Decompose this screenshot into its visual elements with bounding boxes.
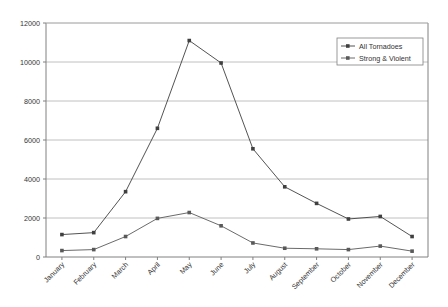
x-tick-label-september: September xyxy=(290,260,322,292)
data-point-strong-violent xyxy=(378,244,382,248)
y-tick-label: 10000 xyxy=(20,58,40,67)
chart-canvas: 020004000600080001000012000JanuaryFebrua… xyxy=(0,0,448,307)
legend-marker-icon xyxy=(346,56,350,60)
x-tick-label-november: November xyxy=(355,260,385,290)
data-point-strong-violent xyxy=(315,247,319,251)
data-point-all-tornadoes xyxy=(283,185,287,189)
data-point-strong-violent xyxy=(124,235,128,239)
data-point-all-tornadoes xyxy=(219,61,223,65)
data-point-strong-violent xyxy=(347,248,351,252)
data-point-all-tornadoes xyxy=(347,217,351,221)
x-tick-label-january: January xyxy=(42,260,67,285)
data-point-all-tornadoes xyxy=(251,147,255,151)
data-point-all-tornadoes xyxy=(92,231,96,235)
data-point-all-tornadoes xyxy=(378,215,382,219)
x-tick-label-july: July xyxy=(242,260,258,276)
x-tick-label-june: June xyxy=(208,260,225,277)
x-tick-label-may: May xyxy=(178,260,194,276)
y-tick-label: 4000 xyxy=(24,175,40,184)
data-point-strong-violent xyxy=(410,249,414,253)
data-point-strong-violent xyxy=(251,241,255,245)
x-tick-label-december: December xyxy=(387,260,417,290)
y-tick-label: 12000 xyxy=(20,19,40,28)
x-tick-label-april: April xyxy=(145,260,162,277)
y-tick-label: 8000 xyxy=(24,97,40,106)
y-tick-label: 2000 xyxy=(24,214,40,223)
y-tick-label: 6000 xyxy=(24,136,40,145)
data-point-strong-violent xyxy=(156,217,160,221)
data-point-all-tornadoes xyxy=(60,233,64,237)
x-tick-label-august: August xyxy=(267,260,289,282)
data-point-strong-violent xyxy=(187,211,191,215)
data-point-all-tornadoes xyxy=(156,127,160,131)
data-point-all-tornadoes xyxy=(187,39,191,43)
data-point-all-tornadoes xyxy=(315,202,319,206)
legend-label-1: Strong & Violent xyxy=(359,54,411,63)
data-point-all-tornadoes xyxy=(124,190,128,194)
legend-label-0: All Tornadoes xyxy=(359,42,403,51)
data-point-strong-violent xyxy=(60,249,64,253)
tornado-line-chart: 020004000600080001000012000JanuaryFebrua… xyxy=(0,0,448,307)
y-tick-label: 0 xyxy=(36,253,40,262)
legend-marker-icon xyxy=(346,44,350,48)
x-tick-label-february: February xyxy=(71,260,98,287)
data-point-strong-violent xyxy=(219,224,223,228)
data-point-strong-violent xyxy=(283,246,287,250)
data-point-strong-violent xyxy=(92,248,96,252)
x-tick-label-march: March xyxy=(110,260,130,280)
data-point-all-tornadoes xyxy=(410,235,414,239)
x-tick-label-october: October xyxy=(328,260,353,285)
